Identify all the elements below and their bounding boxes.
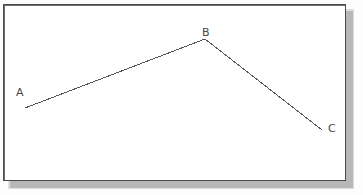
point-label-c: C	[328, 123, 336, 134]
point-label-a: A	[16, 87, 24, 98]
figure-container: A B C	[0, 0, 363, 195]
line-diagram-canvas	[0, 0, 363, 195]
point-label-b: B	[202, 27, 210, 38]
polyline-abc	[25, 39, 322, 130]
